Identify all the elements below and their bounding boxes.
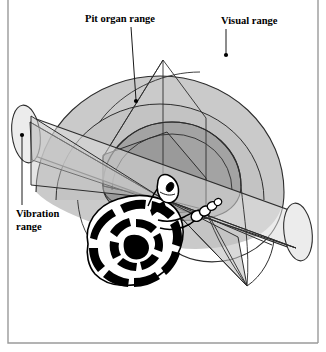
label-visual-range: Visual range [221,15,278,26]
diagram-canvas: Pit organ range Visual range Vibration r… [0,0,326,352]
label-vibration-range-line2: range [16,221,42,232]
leader-dot-vibration [20,133,24,137]
label-pit-organ-range: Pit organ range [85,13,155,24]
label-vibration-range-line1: Vibration [16,208,60,219]
leader-dot-visual [224,53,228,57]
sensory-range-diagram: Pit organ range Visual range Vibration r… [0,0,326,352]
leader-dot-pit-organ [134,99,138,103]
